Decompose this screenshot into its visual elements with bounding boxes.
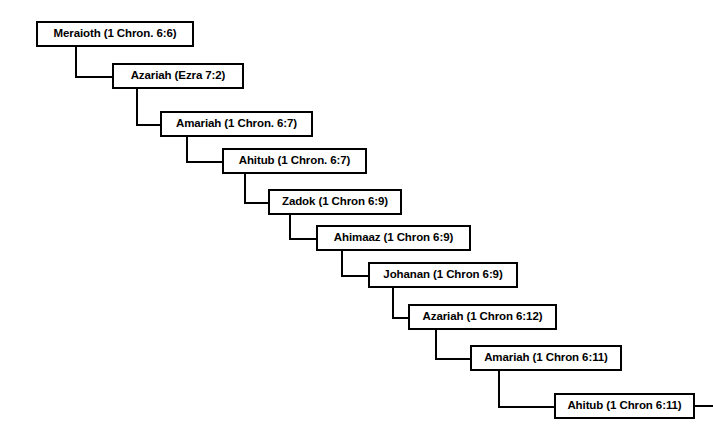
node-label-johanan-69: Johanan (1 Chron 6:9) xyxy=(383,269,502,281)
connector-vertical-meraioth-to-azariah-ezra xyxy=(75,47,77,78)
connector-vertical-amariah-67-to-ahitub-67 xyxy=(186,137,188,163)
connector-vertical-johanan-69-to-azariah-612 xyxy=(392,288,394,319)
connector-horizontal-amariah-611-to-ahitub-611 xyxy=(498,406,556,408)
connector-vertical-azariah-ezra-to-amariah-67 xyxy=(136,89,138,126)
node-label-azariah-ezra: Azariah (Ezra 7:2) xyxy=(131,70,226,82)
genealogy-diagram-canvas: Meraioth (1 Chron. 6:6)Azariah (Ezra 7:2… xyxy=(0,0,713,442)
connector-vertical-zadok-69-to-ahimaaz-69 xyxy=(289,215,291,240)
connector-vertical-azariah-612-to-amariah-611 xyxy=(435,330,437,360)
node-ahitub-611[interactable]: Ahitub (1 Chron 6:11) xyxy=(554,393,695,419)
node-label-ahitub-611: Ahitub (1 Chron 6:11) xyxy=(567,400,681,412)
node-label-amariah-67: Amariah (1 Chron. 6:7) xyxy=(176,118,297,130)
trailing-connector-line xyxy=(695,405,713,407)
connector-vertical-ahitub-67-to-zadok-69 xyxy=(244,174,246,204)
node-azariah-ezra[interactable]: Azariah (Ezra 7:2) xyxy=(112,63,244,89)
node-amariah-611[interactable]: Amariah (1 Chron 6:11) xyxy=(470,345,622,371)
node-label-meraioth: Meraioth (1 Chron. 6:6) xyxy=(54,28,177,40)
node-zadok-69[interactable]: Zadok (1 Chron 6:9) xyxy=(268,189,402,215)
connector-horizontal-azariah-ezra-to-amariah-67 xyxy=(136,124,162,126)
node-label-ahimaaz-69: Ahimaaz (1 Chron 6:9) xyxy=(334,232,453,244)
connector-horizontal-azariah-612-to-amariah-611 xyxy=(435,358,472,360)
node-label-zadok-69: Zadok (1 Chron 6:9) xyxy=(282,196,388,208)
node-johanan-69[interactable]: Johanan (1 Chron 6:9) xyxy=(368,262,518,288)
connector-vertical-amariah-611-to-ahitub-611 xyxy=(498,371,500,408)
node-amariah-67[interactable]: Amariah (1 Chron. 6:7) xyxy=(160,111,313,137)
connector-horizontal-amariah-67-to-ahitub-67 xyxy=(186,161,224,163)
node-label-amariah-611: Amariah (1 Chron 6:11) xyxy=(484,352,608,364)
connector-horizontal-ahitub-67-to-zadok-69 xyxy=(244,202,270,204)
node-azariah-612[interactable]: Azariah (1 Chron 6:12) xyxy=(408,304,557,330)
connector-horizontal-meraioth-to-azariah-ezra xyxy=(75,76,114,78)
node-label-azariah-612: Azariah (1 Chron 6:12) xyxy=(423,311,543,323)
node-ahimaaz-69[interactable]: Ahimaaz (1 Chron 6:9) xyxy=(316,225,471,251)
connector-horizontal-zadok-69-to-ahimaaz-69 xyxy=(289,238,318,240)
node-ahitub-67[interactable]: Ahitub (1 Chron. 6:7) xyxy=(222,148,367,174)
node-label-ahitub-67: Ahitub (1 Chron. 6:7) xyxy=(239,155,351,167)
connector-horizontal-ahimaaz-69-to-johanan-69 xyxy=(341,275,370,277)
node-meraioth[interactable]: Meraioth (1 Chron. 6:6) xyxy=(36,21,194,47)
connector-vertical-ahimaaz-69-to-johanan-69 xyxy=(341,251,343,277)
